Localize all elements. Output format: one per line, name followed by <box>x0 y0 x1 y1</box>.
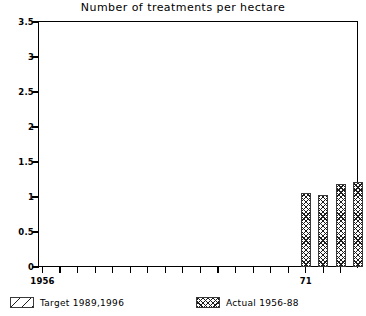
x-axis-tick <box>42 267 43 273</box>
y-axis-tick-label: 1.5 <box>18 157 34 167</box>
x-axis-tick <box>235 267 236 273</box>
x-axis-tick <box>288 267 289 273</box>
x-axis-tick <box>112 267 113 273</box>
x-axis-tick <box>217 267 218 273</box>
x-axis-tick <box>77 267 78 273</box>
x-axis-tick <box>130 267 131 273</box>
x-axis-tick <box>253 267 254 273</box>
bar-1972 <box>318 195 328 267</box>
y-axis-tick-label: 1 <box>28 192 34 202</box>
y-axis-tick-label: 0.5 <box>18 227 34 237</box>
x-axis-tick <box>323 267 324 273</box>
chart-canvas: Number of treatments per hectare 00.511.… <box>0 0 366 316</box>
x-axis-tick <box>270 267 271 273</box>
crosshatch-swatch-icon <box>196 297 220 308</box>
bar-1973 <box>336 184 346 267</box>
x-axis-tick <box>165 267 166 273</box>
legend-actual-label: Actual 1956-88 <box>226 297 299 309</box>
legend-target-label: Target 1989,1996 <box>40 297 124 309</box>
y-axis-tick-label: 2.5 <box>18 87 34 97</box>
y-axis-tick-label: 3.5 <box>18 17 34 27</box>
x-axis-tick <box>59 267 60 273</box>
bar-1974 <box>353 182 363 267</box>
x-axis-tick <box>305 267 306 273</box>
x-axis-tick <box>147 267 148 273</box>
bar-1971 <box>301 193 311 267</box>
x-axis-tick <box>182 267 183 273</box>
x-axis-tick-label: 71 <box>300 276 312 286</box>
y-axis-tick-label: 2 <box>28 122 34 132</box>
diagonal-hatch-swatch-icon <box>10 297 34 308</box>
chart-legend: Target 1989,1996 Actual 1956-88 <box>0 296 366 312</box>
y-axis-tick-label: 0 <box>28 262 34 272</box>
x-axis-tick-label: 1956 <box>30 276 54 286</box>
x-axis-tick <box>200 267 201 273</box>
y-axis-tick-label: 3 <box>28 52 34 62</box>
chart-title: Number of treatments per hectare <box>0 1 366 14</box>
x-axis-tick <box>95 267 96 273</box>
x-axis-tick <box>340 267 341 273</box>
